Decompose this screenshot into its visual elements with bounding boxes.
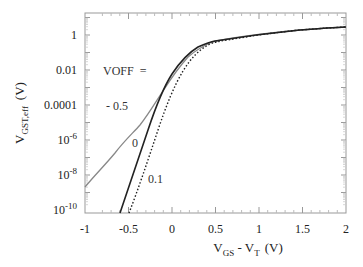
x-tick-label: -1 [80,222,90,236]
y-tick-label: 1 [71,28,77,42]
x-minor-ticks [102,13,337,213]
voff-label: VOFF = [103,64,147,78]
plot-frame [85,13,346,213]
y-tick-label: 10-10 [53,201,77,217]
x-tick-label: -0.5 [119,222,138,236]
x-axis-title: VGS - VT(V) [213,240,282,258]
y-tick-label: 0.01 [56,63,77,77]
y-tick-label: 10-8 [58,166,78,182]
x-tick-label: 1.5 [295,222,310,236]
y-axis-title: VGST,eff(V) [12,82,30,144]
y-tick-labels: 1 0.01 0.0001 10-6 10-8 10-10 [44,28,77,217]
x-tick-label: 0 [169,222,175,236]
curve-label-0.1: 0.1 [148,172,163,186]
y-tick-label: 0.0001 [44,98,77,112]
curve-label-minus-0.5: - 0.5 [106,99,128,113]
x-tick-labels: -1 -0.5 0 0.5 1 1.5 2 [80,222,349,236]
curve-label-0: 0 [132,136,138,150]
x-tick-label: 0.5 [208,222,223,236]
x-tick-label: 1 [256,222,262,236]
y-tick-label: 10-6 [58,131,78,147]
x-tick-label: 2 [343,222,349,236]
chart: -1 -0.5 0 0.5 1 1.5 2 1 0.01 0.0001 10-6… [0,0,363,267]
